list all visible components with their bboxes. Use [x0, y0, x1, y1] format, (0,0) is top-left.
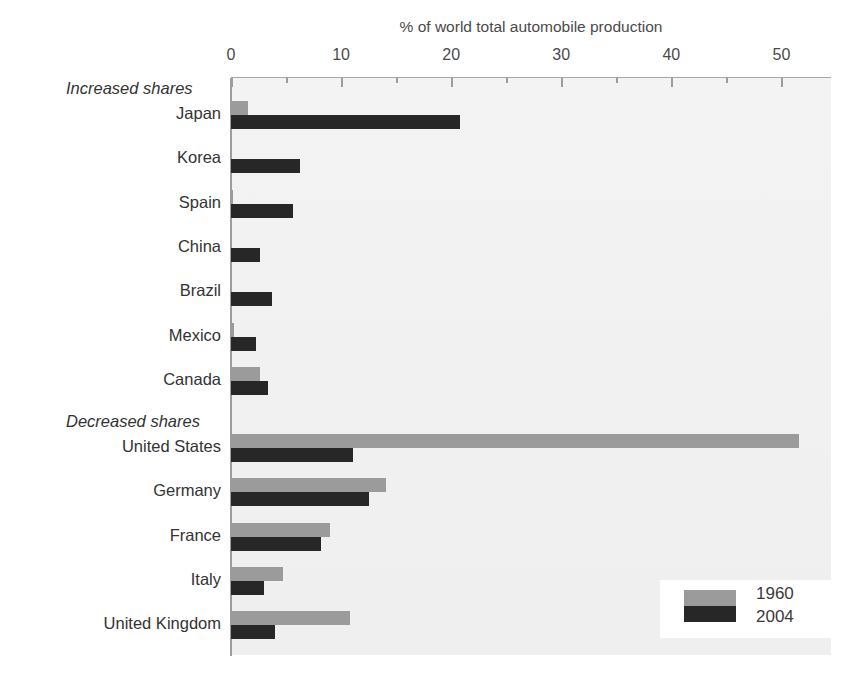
category-label-korea: Korea [0, 148, 221, 167]
x-axis-tick-major-0 [231, 78, 233, 87]
group-heading-increased: Increased shares [66, 79, 193, 98]
category-label-spain: Spain [0, 193, 221, 212]
bar-1960-france [231, 523, 330, 537]
category-label-italy: Italy [0, 570, 221, 589]
bar-1960-germany [231, 478, 386, 492]
bar-1960-mexico [231, 323, 234, 337]
category-label-france: France [0, 526, 221, 545]
bar-2004-united-states [231, 448, 353, 462]
bar-2004-canada [231, 381, 268, 395]
bar-2004-mexico [231, 337, 256, 351]
x-axis-tick-label-0: 0 [227, 46, 236, 64]
category-label-united-kingdom: United Kingdom [0, 614, 221, 633]
x-axis-tick-minor-45 [726, 78, 728, 83]
chart-container: % of world total automobile production 0… [0, 0, 861, 688]
category-label-brazil: Brazil [0, 281, 221, 300]
bar-2004-brazil [231, 292, 272, 306]
bar-2004-united-kingdom [231, 625, 275, 639]
legend-label-1960: 1960 [756, 584, 794, 604]
legend-label-2004: 2004 [756, 607, 794, 627]
x-axis-tick-major-50 [781, 78, 783, 87]
x-axis-tick-minor-5 [286, 78, 288, 83]
group-heading-decreased: Decreased shares [66, 412, 200, 431]
bar-1960-united-kingdom [231, 611, 350, 625]
legend-swatch-1960 [684, 590, 736, 606]
bar-2004-china [231, 248, 260, 262]
bar-2004-germany [231, 492, 369, 506]
x-axis-tick-label-20: 20 [442, 46, 460, 64]
x-axis-tick-minor-15 [396, 78, 398, 83]
bar-2004-spain [231, 204, 293, 218]
legend: 1960 2004 [660, 580, 832, 638]
bar-1960-japan [231, 101, 248, 115]
x-axis-tick-label-50: 50 [773, 46, 791, 64]
x-axis-tick-major-40 [671, 78, 673, 87]
x-axis-tick-major-20 [451, 78, 453, 87]
bar-1960-italy [231, 567, 283, 581]
bar-1960-spain [231, 190, 233, 204]
plot-area-background [231, 78, 831, 655]
category-label-mexico: Mexico [0, 326, 221, 345]
x-axis-tick-label-10: 10 [332, 46, 350, 64]
chart-axis-title: % of world total automobile production [231, 18, 831, 36]
bar-2004-japan [231, 115, 460, 129]
bar-2004-france [231, 537, 321, 551]
category-label-germany: Germany [0, 481, 221, 500]
x-axis-tick-major-10 [341, 78, 343, 87]
legend-swatch-2004 [684, 606, 736, 622]
category-label-canada: Canada [0, 370, 221, 389]
category-label-japan: Japan [0, 104, 221, 123]
bar-1960-canada [231, 367, 260, 381]
category-label-china: China [0, 237, 221, 256]
bar-2004-korea [231, 159, 300, 173]
x-axis-tick-major-30 [561, 78, 563, 87]
x-axis-tick-label-30: 30 [552, 46, 570, 64]
category-label-united-states: United States [0, 437, 221, 456]
bar-2004-italy [231, 581, 264, 595]
x-axis-tick-minor-35 [616, 78, 618, 83]
x-axis-tick-label-40: 40 [662, 46, 680, 64]
x-axis-tick-minor-25 [506, 78, 508, 83]
x-axis-line [231, 77, 831, 78]
bar-1960-united-states [231, 434, 799, 448]
